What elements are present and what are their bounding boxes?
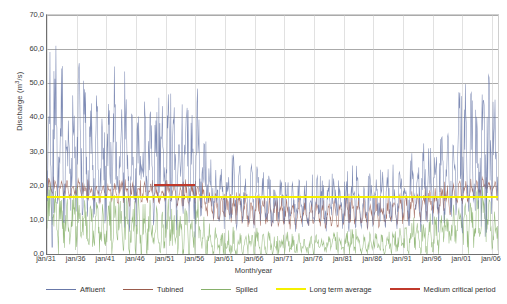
x-tick-label: jan/31: [36, 254, 56, 263]
x-tick-label: jan/01: [452, 254, 472, 263]
x-tick-label: jan/81: [333, 254, 353, 263]
x-tick-label: jan/91: [392, 254, 412, 263]
y-tick-label: 10,0: [29, 214, 44, 223]
legend-swatch-icon: [123, 289, 153, 290]
x-tick-label: jan/46: [125, 254, 145, 263]
x-tick-label: jan/36: [66, 254, 86, 263]
y-tick-label: 40,0: [29, 112, 44, 121]
legend-swatch-icon: [390, 288, 420, 290]
legend-label: Long term average: [310, 285, 372, 294]
legend-label: Spilled: [235, 285, 257, 294]
y-tick-label: 30,0: [29, 146, 44, 155]
legend-item[interactable]: Tubined: [123, 285, 183, 294]
x-axis-title: Month/year: [0, 266, 507, 275]
legend-item[interactable]: Spilled: [201, 285, 257, 294]
x-tick-label: jan/96: [422, 254, 442, 263]
legend-item[interactable]: Affluent: [46, 285, 105, 294]
legend-item[interactable]: Long term average: [276, 285, 372, 294]
plot-area: [46, 14, 499, 255]
y-tick-label: 50,0: [29, 78, 44, 87]
legend-swatch-icon: [276, 288, 306, 290]
x-tick-label: jan/56: [185, 254, 205, 263]
chart-legend: AffluentTubinedSpilledLong term averageM…: [46, 282, 501, 296]
x-tick-label: jan/86: [363, 254, 383, 263]
x-axis-tick-labels: jan/31jan/36jan/41jan/46jan/51jan/56jan/…: [46, 254, 497, 266]
legend-label: Medium critical period: [424, 285, 496, 294]
legend-swatch-icon: [201, 289, 231, 290]
y-tick-label: 60,0: [29, 44, 44, 53]
discharge-time-series-chart: Discharge (m3/s) 0,010,020,030,040,050,0…: [0, 0, 507, 304]
medium-critical-period-line: [154, 184, 196, 186]
x-tick-label: jan/66: [244, 254, 264, 263]
legend-item[interactable]: Medium critical period: [390, 285, 496, 294]
x-tick-label: jan/76: [303, 254, 323, 263]
y-tick-label: 20,0: [29, 180, 44, 189]
x-tick-label: jan/61: [214, 254, 234, 263]
legend-label: Affluent: [80, 285, 105, 294]
y-tick-label: 70,0: [29, 10, 44, 19]
x-tick-label: jan/51: [155, 254, 175, 263]
x-tick-label: jan/41: [96, 254, 116, 263]
legend-label: Tubined: [157, 285, 183, 294]
x-tick-label: jan/06: [481, 254, 501, 263]
long-term-average-line: [47, 196, 498, 198]
series-canvas: [47, 15, 498, 254]
legend-swatch-icon: [46, 289, 76, 290]
x-tick-label: jan/71: [274, 254, 294, 263]
y-axis-tick-labels: 0,010,020,030,040,050,060,070,0: [14, 14, 44, 253]
